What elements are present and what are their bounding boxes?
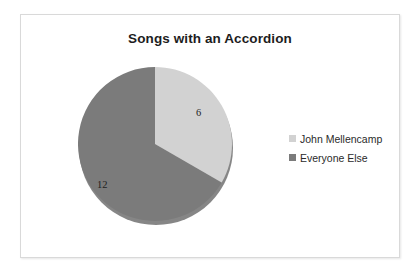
pie-svg bbox=[78, 67, 232, 221]
legend-label-john-mellencamp: John Mellencamp bbox=[300, 133, 382, 145]
plot-area: 6 12 John Mellencamp Everyone Else bbox=[21, 15, 401, 259]
pie-data-label-everyone-else: 12 bbox=[97, 179, 108, 190]
legend-item-everyone-else[interactable]: Everyone Else bbox=[289, 148, 401, 167]
pie-data-label-john-mellencamp: 6 bbox=[196, 107, 201, 118]
legend-swatch-icon bbox=[289, 154, 296, 161]
legend-item-john-mellencamp[interactable]: John Mellencamp bbox=[289, 129, 401, 148]
chart-screenshot: Songs with an Accordion 6 12 John Mellen… bbox=[0, 0, 420, 276]
chart-legend: John Mellencamp Everyone Else bbox=[289, 129, 401, 167]
chart-frame: Songs with an Accordion 6 12 John Mellen… bbox=[20, 14, 400, 258]
legend-label-everyone-else: Everyone Else bbox=[300, 152, 368, 164]
pie-chart: 6 12 bbox=[78, 67, 234, 225]
legend-swatch-icon bbox=[289, 135, 296, 142]
